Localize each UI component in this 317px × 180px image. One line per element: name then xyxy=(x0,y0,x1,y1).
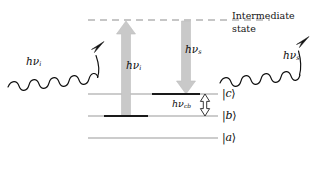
transition-pump-up-label-prefix: hν xyxy=(126,59,139,71)
transition-splitting-label-prefix: hν xyxy=(172,98,184,109)
transition-stokes-down-label-prefix: hν xyxy=(185,43,198,55)
photon-incident-label-prefix: hν xyxy=(26,55,39,67)
transition-stokes-down-label-subscript: s xyxy=(198,48,201,56)
photon-scattered-label-subscript: s xyxy=(296,54,299,62)
photon-scattered-label-prefix: hν xyxy=(283,49,296,61)
photon-incident-label-subscript: i xyxy=(39,60,41,68)
energy-level-diagram: Intermediate state hνi hνs hνi hνs hνcb … xyxy=(0,0,317,180)
photon-scattered-label: hνs xyxy=(283,49,300,63)
level-label-a: |a⟩ xyxy=(222,132,236,145)
level-label-b-ket: ⟩ xyxy=(232,109,236,122)
intermediate-state-label-line2: state xyxy=(232,23,256,34)
intermediate-state-label-line1: Intermediate xyxy=(232,10,295,21)
level-label-c: |c⟩ xyxy=(222,88,235,101)
photon-wave-incident xyxy=(8,42,104,91)
level-label-c-ket: ⟩ xyxy=(231,87,235,100)
transition-stokes-down-label: hνs xyxy=(185,43,202,57)
transition-arrow-splitting-double xyxy=(200,94,209,116)
level-label-a-ket: ⟩ xyxy=(232,131,236,144)
transition-pump-up-label-subscript: i xyxy=(139,64,141,72)
transition-splitting-label: hνcb xyxy=(172,98,191,110)
transition-splitting-label-subscript: cb xyxy=(184,103,191,109)
level-label-b: |b⟩ xyxy=(222,110,236,123)
intermediate-state-label: Intermediate state xyxy=(232,10,310,35)
transition-pump-up-label: hνi xyxy=(126,59,141,73)
transition-arrow-stokes-down xyxy=(177,21,196,94)
photon-incident-label: hνi xyxy=(26,55,41,69)
